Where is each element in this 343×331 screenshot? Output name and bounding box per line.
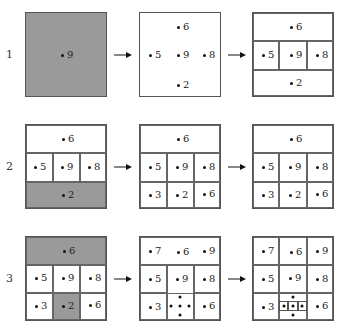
point-top-right: 9 (203, 246, 215, 256)
point-bottom-right: 6 (316, 189, 328, 199)
dot-icon (262, 166, 265, 169)
dot-icon (61, 166, 64, 169)
arrow-right-icon (114, 51, 132, 59)
dot-icon (62, 277, 65, 280)
dot-icon (63, 250, 66, 253)
dot-icon (177, 138, 180, 141)
dot-icon (149, 194, 152, 197)
point-bottom: 2 (62, 190, 74, 200)
dot-icon (262, 194, 265, 197)
point-mid-center: 9 (176, 162, 188, 172)
point-bottom-center: 2 (289, 190, 301, 200)
dot-icon (176, 194, 179, 197)
point-bottom-center: 2 (176, 190, 188, 200)
panel-r3c3: 7 6 9 5 9 8 3 6 (252, 236, 334, 321)
point-top-right: 9 (316, 246, 328, 256)
point-bottom-right: 6 (203, 189, 215, 199)
dot-icon (316, 54, 319, 57)
point-top: 6 (290, 134, 302, 144)
point-bottom-right: 6 (89, 300, 101, 310)
point-bottom-left: 3 (35, 301, 47, 311)
point-mid-left: 5 (262, 274, 274, 284)
point-mid-center: 9 (176, 274, 188, 284)
row-label-3: 3 (6, 272, 13, 285)
dot-icon (290, 82, 293, 85)
dot-icon (203, 305, 206, 308)
point-bottom-right: 6 (316, 301, 328, 311)
arrow-right-icon (228, 275, 246, 283)
dot-icon (177, 54, 180, 57)
dot-icon (203, 166, 206, 169)
dot-icon (170, 305, 173, 308)
row-label-1: 1 (6, 48, 13, 61)
point-mid-left: 5 (262, 162, 274, 172)
dot-icon (203, 193, 206, 196)
panel-r1c1: 9 (25, 12, 107, 97)
dot-icon (262, 306, 265, 309)
arrow-right-icon (228, 163, 246, 171)
point-mid-right: 8 (316, 162, 328, 172)
dot-icon (177, 251, 180, 254)
dot-icon (177, 84, 180, 87)
point-center: 9 (61, 162, 73, 172)
point-center: 9 (177, 50, 189, 60)
dot-icon (179, 296, 182, 299)
point-top: 6 (177, 134, 189, 144)
dot-icon (149, 306, 152, 309)
point-right: 8 (88, 162, 100, 172)
point-top-center: 6 (290, 247, 302, 257)
point-right: 8 (203, 50, 215, 60)
dot-icon (203, 250, 206, 253)
point-bottom: 2 (177, 80, 189, 90)
point-top-left: 7 (262, 246, 274, 256)
dot-icon (316, 193, 319, 196)
dot-icon (188, 305, 191, 308)
point-mid-center: 9 (62, 273, 74, 283)
dot-icon (289, 166, 292, 169)
panel-r2c2: 6 5 9 8 3 2 6 (139, 124, 221, 209)
dot-icon (176, 278, 179, 281)
dot-icon (176, 166, 179, 169)
dot-icon (203, 278, 206, 281)
dot-icon (88, 166, 91, 169)
point-left: 5 (149, 50, 161, 60)
point-center: 9 (290, 50, 302, 60)
point-mid-right: 8 (316, 274, 328, 284)
dot-icon (149, 166, 152, 169)
dot-icon (316, 278, 319, 281)
dot-icon (149, 250, 152, 253)
point-right: 8 (316, 50, 328, 60)
point-bottom-right: 6 (203, 301, 215, 311)
point-bottom-center: 2 (62, 301, 74, 311)
panel-r3c2: 7 6 9 5 9 8 3 6 (139, 236, 221, 321)
dot-icon (262, 54, 265, 57)
dot-icon (290, 54, 293, 57)
dot-icon (292, 305, 295, 308)
arrow-right-icon (228, 51, 246, 59)
point-top: 6 (62, 134, 74, 144)
dot-icon (262, 250, 265, 253)
dot-icon (179, 305, 182, 308)
point-center: 9 (61, 50, 73, 60)
point-top-left: 7 (149, 246, 161, 256)
point-bottom-left: 3 (149, 302, 161, 312)
dot-icon (149, 54, 152, 57)
point-left: 5 (34, 162, 46, 172)
point-mid-center: 9 (289, 273, 301, 283)
point-top: 6 (177, 22, 189, 32)
row-label-2: 2 (6, 160, 13, 173)
dot-icon (35, 305, 38, 308)
dot-icon (289, 277, 292, 280)
dot-icon (35, 277, 38, 280)
panel-r1c3: 6 5 9 8 2 (252, 12, 334, 97)
dot-icon (289, 194, 292, 197)
point-mid-left: 5 (149, 162, 161, 172)
dot-icon (262, 278, 265, 281)
point-mid-right: 8 (89, 273, 101, 283)
dot-icon (290, 251, 293, 254)
point-top: 6 (63, 246, 75, 256)
dot-icon (62, 305, 65, 308)
point-bottom-left: 3 (149, 190, 161, 200)
dot-icon (177, 26, 180, 29)
dot-icon (292, 296, 295, 299)
